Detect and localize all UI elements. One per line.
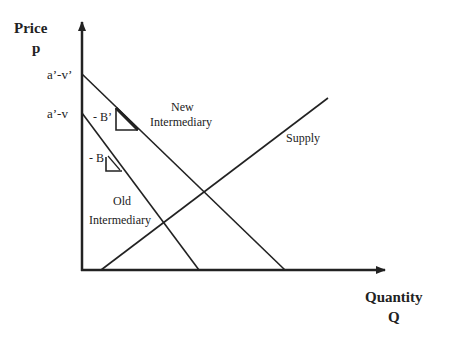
- old-intermediary-label-line2: Intermediary: [89, 213, 151, 227]
- y-tick-new-intercept: a’-v’: [47, 67, 72, 82]
- slope-label-old: - B: [89, 151, 104, 165]
- supply-label: Supply: [286, 131, 320, 145]
- old-intermediary-label-line1: Old: [113, 194, 131, 208]
- y-axis-symbol: p: [32, 40, 40, 56]
- y-axis-title: Price: [14, 20, 48, 36]
- slope-triangle-new: [116, 108, 138, 130]
- new-intermediary-label-line1: New: [171, 100, 194, 114]
- slope-label-new: - B’: [93, 110, 112, 124]
- new-intermediary-label-line2: Intermediary: [150, 115, 212, 129]
- supply-demand-diagram: Price p Quantity Q a’-v’ a’-v - B’ - B N…: [0, 0, 455, 345]
- old-intermediary-demand-line: [82, 113, 199, 270]
- x-axis-symbol: Q: [388, 309, 400, 325]
- x-axis-title: Quantity: [365, 289, 423, 305]
- y-tick-old-intercept: a’-v: [47, 106, 68, 121]
